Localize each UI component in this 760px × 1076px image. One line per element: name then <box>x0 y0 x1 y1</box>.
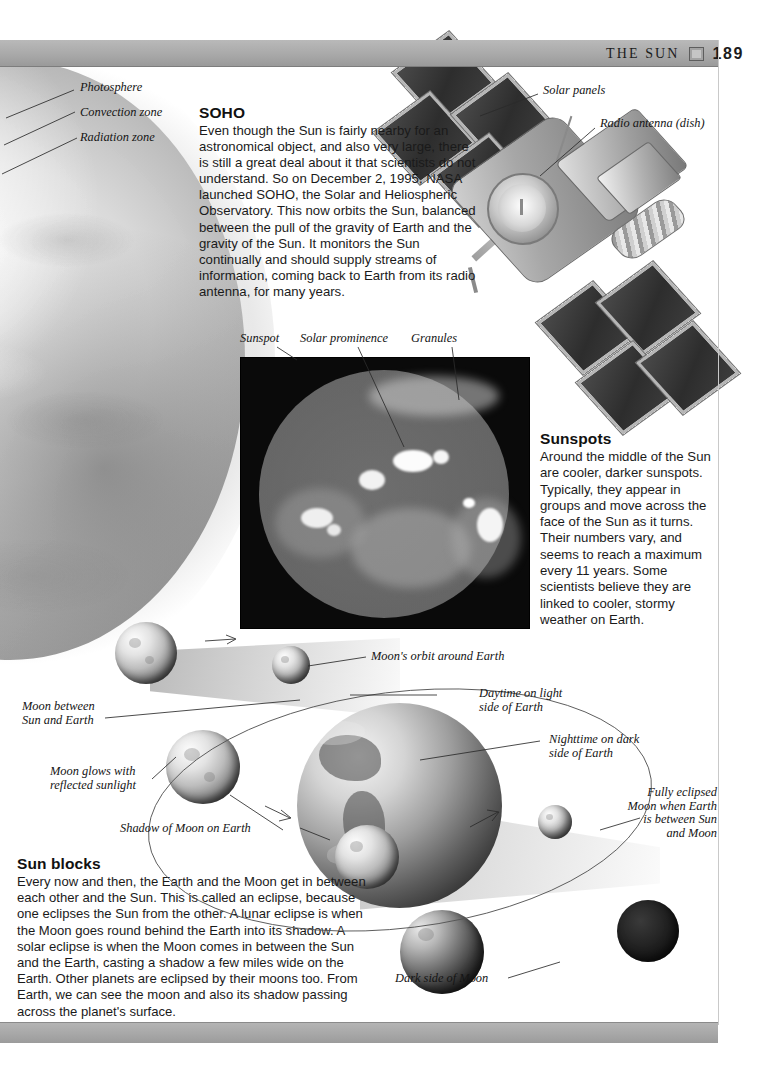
active-region-2 <box>433 450 449 464</box>
active-region-7 <box>327 524 341 536</box>
label-dark-side-of-moon: Dark side of Moon <box>395 972 488 986</box>
label-shadow-of-moon-on-earth: Shadow of Moon on Earth <box>120 822 251 836</box>
label-fully-eclipsed-moon: Fully eclipsed Moon when Earth is betwee… <box>545 786 717 840</box>
page-right-rule <box>718 40 719 1025</box>
moon-crater <box>204 772 215 782</box>
label-daytime: Daytime on light side of Earth <box>479 687 562 714</box>
corona-wisp-top <box>369 376 499 416</box>
label-sunspot: Sunspot <box>240 332 279 346</box>
moon-between-sun-and-earth <box>115 622 177 684</box>
moon-crater <box>184 748 200 761</box>
sunspots-heading: Sunspots <box>540 430 715 448</box>
sun-blocks-text-block: Sun blocks Every now and then, the Earth… <box>17 855 367 1020</box>
label-moon-between-sun-and-earth: Moon between Sun and Earth <box>22 700 95 727</box>
sun-blocks-body: Every now and then, the Earth and the Mo… <box>17 874 367 1020</box>
page-footer-bar <box>0 1022 718 1043</box>
moon-crater <box>129 638 141 648</box>
radio-antenna-dish <box>487 173 559 245</box>
moon-crater <box>418 928 434 941</box>
soho-text-block: SOHO Even though the Sun is fairly nearb… <box>199 104 477 300</box>
sun-blocks-heading: Sun blocks <box>17 855 367 873</box>
page-canvas: SOHO Even though the Sun is fairly nearb… <box>0 0 760 1076</box>
moon-crater <box>145 656 154 664</box>
label-moon-glows: Moon glows with reflected sunlight <box>50 765 136 792</box>
radio-antenna-feed <box>520 199 523 215</box>
running-head-title: THE SUN <box>606 46 679 62</box>
moon-small-upper <box>272 646 310 684</box>
active-region-1 <box>393 450 433 472</box>
running-head: THE SUN 189 <box>606 41 744 66</box>
soho-body: Even though the Sun is fairly nearby for… <box>199 123 477 300</box>
moon-fully-eclipsed <box>617 900 679 962</box>
label-radio-antenna: Radio antenna (dish) <box>600 117 705 131</box>
moon-crater <box>350 841 363 852</box>
label-radiation-zone: Radiation zone <box>80 131 155 145</box>
label-granules: Granules <box>411 332 457 346</box>
label-solar-prominence: Solar prominence <box>300 332 388 346</box>
label-solar-panels: Solar panels <box>543 84 605 98</box>
label-convection-zone: Convection zone <box>80 106 162 120</box>
label-nighttime: Nighttime on dark side of Earth <box>549 733 639 760</box>
sunspots-text-block: Sunspots Around the middle of the Sun ar… <box>540 430 715 628</box>
soho-heading: SOHO <box>199 104 477 122</box>
moon-crater <box>281 656 289 663</box>
label-moons-orbit: Moon's orbit around Earth <box>371 650 504 664</box>
sun-corona-photograph <box>240 357 530 629</box>
moon-glowing-reflected <box>166 730 240 804</box>
active-region-6 <box>463 498 475 508</box>
book-square-icon <box>689 47 704 61</box>
label-photosphere: Photosphere <box>80 81 142 95</box>
active-region-3 <box>359 470 385 490</box>
active-region-5 <box>477 508 503 542</box>
